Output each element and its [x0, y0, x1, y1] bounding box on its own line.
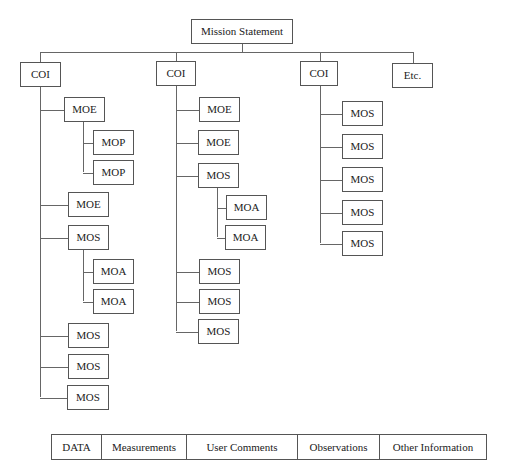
mos-node: MOS: [199, 289, 240, 314]
mission-statement-label: Mission Statement: [201, 26, 283, 37]
table-cell-measurements: Measurements: [102, 435, 187, 459]
sub-branch-line: [217, 208, 226, 209]
branch-line: [176, 176, 198, 177]
branch-line: [320, 180, 342, 181]
moe-node: MOE: [68, 192, 109, 217]
mos-node-label: MOS: [77, 361, 101, 372]
top-connector-line: [40, 52, 414, 53]
moe-node-label: MOE: [206, 137, 230, 148]
mos-node-label: MOS: [351, 174, 375, 185]
mos-node-label: MOS: [77, 232, 101, 243]
branch-line: [320, 213, 342, 214]
branch-line: [176, 110, 199, 111]
coi-node: COI: [300, 61, 338, 86]
moa-node-label: MOA: [234, 202, 260, 213]
coi-node: COI: [156, 61, 196, 86]
coi-node-label: COI: [31, 69, 50, 80]
table-cell-label: Other Information: [393, 441, 473, 453]
mos-node-label: MOS: [77, 330, 101, 341]
table-cell-label: User Comments: [206, 441, 277, 453]
coi-node-label: COI: [167, 68, 186, 79]
mos-node-label: MOS: [351, 207, 375, 218]
sub-branch-line: [83, 143, 93, 144]
moe-node: MOE: [198, 130, 239, 155]
mos-node: MOS: [198, 163, 239, 188]
mos-node: MOS: [342, 200, 383, 225]
branch-line: [176, 272, 199, 273]
coi-stem-line: [320, 86, 321, 243]
moa-node: MOA: [93, 259, 134, 284]
sub-branch-line: [217, 238, 225, 239]
mos-node: MOS: [342, 101, 383, 126]
column-drop-line: [413, 52, 414, 63]
mos-node-label: MOS: [351, 238, 375, 249]
root-connector-line: [242, 44, 243, 52]
moa-node-label: MOA: [101, 266, 127, 277]
branch-line: [40, 336, 68, 337]
mos-node-label: MOS: [207, 326, 231, 337]
mos-node: MOS: [68, 323, 109, 348]
column-drop-line: [176, 52, 177, 61]
branch-line: [40, 398, 67, 399]
sub-stem-line: [217, 188, 218, 237]
mos-node: MOS: [198, 319, 239, 344]
moa-node: MOA: [226, 195, 267, 220]
etc-node: Etc.: [392, 63, 433, 88]
mos-node-label: MOS: [76, 392, 100, 403]
sub-stem-line: [83, 250, 84, 301]
moa-node-label: MOA: [233, 232, 259, 243]
sub-stem-line: [83, 122, 84, 172]
mos-node-label: MOS: [207, 170, 231, 181]
branch-line: [320, 114, 342, 115]
mos-node-label: MOS: [351, 108, 375, 119]
moe-node-label: MOE: [76, 199, 100, 210]
moa-node-label: MOA: [101, 296, 127, 307]
moe-node-label: MOE: [207, 104, 231, 115]
branch-line: [320, 147, 342, 148]
moe-node: MOE: [64, 97, 105, 122]
hierarchy-diagram: Mission Statement COIMOEMOPMOPMOEMOSMOAM…: [0, 0, 507, 476]
table-cell-other-information: Other Information: [380, 435, 486, 459]
branch-line: [176, 332, 198, 333]
coi-stem-line: [176, 86, 177, 331]
branch-line: [320, 244, 342, 245]
table-cell-label: Observations: [309, 441, 367, 453]
moe-node: MOE: [199, 97, 240, 122]
column-drop-line: [40, 52, 41, 62]
mission-statement-node: Mission Statement: [191, 19, 293, 44]
moa-node: MOA: [225, 225, 266, 250]
table-cell-observations: Observations: [298, 435, 380, 459]
moa-node: MOA: [93, 289, 134, 314]
moe-node-label: MOE: [72, 104, 96, 115]
mos-node: MOS: [342, 167, 383, 192]
mop-node: MOP: [93, 130, 134, 155]
branch-line: [40, 238, 68, 239]
mos-node: MOS: [68, 225, 109, 250]
branch-line: [40, 367, 68, 368]
mos-node: MOS: [67, 385, 109, 410]
mos-node: MOS: [199, 259, 240, 284]
table-cell-user-comments: User Comments: [187, 435, 298, 459]
mos-node: MOS: [342, 134, 383, 159]
sub-branch-line: [83, 302, 93, 303]
mos-node-label: MOS: [208, 266, 232, 277]
mos-node: MOS: [68, 354, 109, 379]
table-cell-label: DATA: [62, 441, 90, 453]
branch-line: [40, 205, 68, 206]
mop-node-label: MOP: [102, 167, 126, 178]
mop-node-label: MOP: [102, 137, 126, 148]
data-categories-table: DATAMeasurementsUser CommentsObservation…: [51, 434, 487, 460]
branch-line: [40, 110, 64, 111]
table-cell-data: DATA: [52, 435, 102, 459]
sub-branch-line: [83, 272, 93, 273]
coi-stem-line: [40, 87, 41, 397]
mos-node-label: MOS: [351, 141, 375, 152]
coi-node-label: COI: [310, 68, 329, 79]
table-cell-label: Measurements: [112, 441, 176, 453]
mos-node: MOS: [342, 231, 383, 256]
mos-node-label: MOS: [208, 296, 232, 307]
column-drop-line: [320, 52, 321, 61]
mop-node: MOP: [93, 160, 134, 185]
branch-line: [176, 302, 199, 303]
branch-line: [176, 143, 198, 144]
